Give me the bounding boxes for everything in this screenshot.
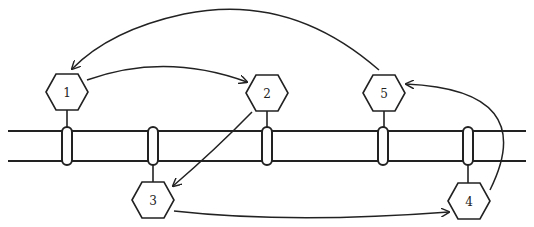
node-4: 4: [448, 183, 490, 219]
node-2-label: 2: [263, 87, 271, 101]
node-1-label: 1: [63, 86, 71, 100]
pore-2: [262, 127, 272, 165]
node-3-label: 3: [149, 194, 157, 208]
pore-4: [463, 127, 473, 165]
arrow-3-to-4: [174, 211, 449, 218]
pore-1: [62, 127, 72, 165]
node-5: 5: [363, 75, 405, 111]
node-3: 3: [132, 182, 174, 218]
arrow-5-to-1: [72, 9, 379, 70]
arrow-4-to-5: [406, 84, 504, 190]
pore-3: [148, 127, 158, 165]
cycle-diagram: 1 2 3 4 5: [0, 0, 534, 227]
node-2: 2: [246, 75, 288, 111]
node-5-label: 5: [380, 87, 388, 101]
arrow-2-to-3: [173, 112, 252, 186]
node-4-label: 4: [465, 195, 473, 209]
arrow-1-to-2: [87, 66, 247, 82]
pore-5: [378, 127, 388, 165]
node-1: 1: [46, 74, 88, 110]
